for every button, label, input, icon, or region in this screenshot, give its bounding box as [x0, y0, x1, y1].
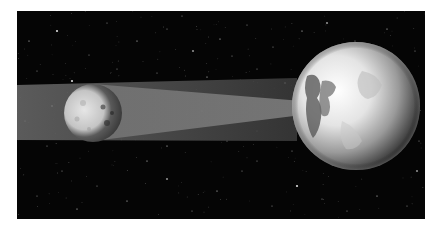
star	[424, 14, 425, 15]
star	[338, 201, 339, 202]
star	[361, 179, 362, 180]
star	[323, 184, 324, 185]
star	[65, 63, 66, 64]
star	[223, 177, 224, 178]
star	[136, 40, 137, 41]
star	[86, 176, 87, 177]
star	[113, 165, 114, 166]
star	[414, 48, 415, 49]
star	[305, 214, 306, 215]
star	[423, 187, 424, 188]
star	[219, 38, 220, 39]
star	[46, 145, 47, 146]
star	[57, 173, 58, 174]
star	[18, 53, 19, 54]
star	[156, 72, 157, 73]
star	[179, 67, 180, 68]
star	[296, 185, 298, 187]
star	[71, 181, 72, 182]
star	[412, 203, 413, 204]
star	[384, 32, 385, 33]
star	[253, 144, 254, 145]
star	[249, 55, 250, 56]
star	[116, 68, 117, 69]
earth	[292, 42, 425, 170]
star	[66, 75, 67, 76]
star	[157, 59, 158, 60]
star	[181, 15, 182, 16]
star	[89, 25, 90, 26]
star	[324, 203, 325, 204]
star	[50, 25, 51, 26]
star	[50, 15, 51, 16]
star	[66, 198, 67, 199]
star	[218, 21, 219, 22]
star	[187, 197, 188, 198]
star	[49, 193, 50, 194]
star	[208, 207, 209, 208]
star	[20, 168, 21, 169]
star	[255, 38, 256, 39]
star	[56, 30, 58, 32]
star	[246, 72, 247, 73]
star	[112, 62, 113, 63]
star	[288, 157, 289, 158]
star	[203, 192, 204, 193]
star	[56, 163, 57, 164]
star	[214, 24, 215, 25]
star	[328, 176, 329, 177]
star	[166, 178, 168, 180]
star	[196, 26, 197, 27]
star	[392, 46, 393, 47]
eclipse-illustration	[17, 11, 425, 219]
star	[185, 76, 186, 77]
star	[271, 29, 272, 30]
star	[158, 214, 159, 215]
star	[204, 212, 205, 213]
star	[85, 68, 86, 69]
star	[354, 40, 355, 41]
star	[221, 142, 222, 143]
star	[416, 170, 418, 172]
star	[136, 157, 137, 158]
star	[82, 202, 83, 203]
star	[127, 170, 128, 171]
star	[295, 158, 296, 159]
star	[145, 183, 146, 184]
star	[285, 27, 286, 28]
star	[110, 73, 111, 74]
star	[306, 171, 307, 172]
star	[146, 160, 147, 161]
star	[421, 148, 422, 149]
star	[106, 22, 107, 23]
star	[88, 151, 89, 152]
star	[404, 11, 405, 12]
star	[72, 45, 73, 46]
star	[18, 214, 19, 215]
star	[290, 211, 291, 212]
star	[152, 16, 153, 17]
star	[23, 175, 24, 176]
star	[294, 161, 295, 162]
star	[75, 41, 76, 42]
star	[343, 39, 344, 40]
star	[141, 17, 142, 18]
star	[376, 195, 377, 196]
star	[178, 186, 179, 187]
star	[37, 206, 38, 207]
star	[271, 205, 272, 206]
star	[178, 193, 179, 194]
star	[28, 40, 29, 41]
star	[323, 173, 324, 174]
star	[414, 50, 415, 51]
star	[85, 11, 86, 12]
star	[359, 209, 360, 210]
star	[226, 199, 227, 200]
star	[49, 203, 50, 204]
star	[392, 31, 393, 32]
star	[293, 46, 294, 47]
star	[23, 174, 24, 175]
star	[40, 64, 41, 65]
star	[291, 150, 292, 151]
star	[112, 165, 113, 166]
